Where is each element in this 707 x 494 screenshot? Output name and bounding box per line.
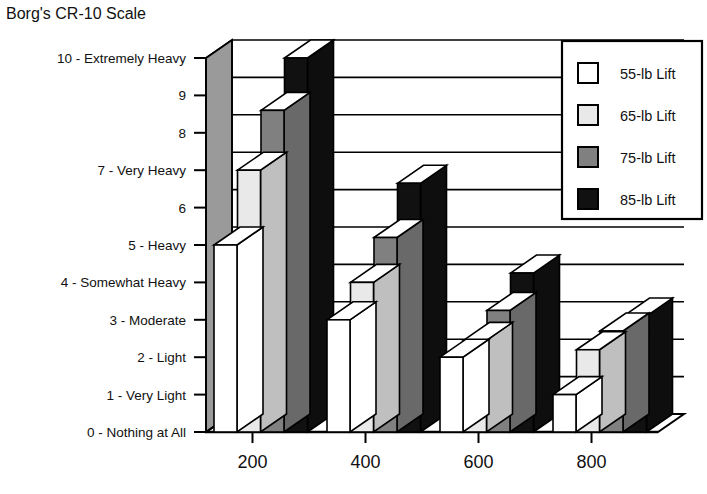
- y-axis-tick-label: 5 - Heavy: [128, 238, 186, 253]
- y-axis-tick-label: 9: [178, 88, 186, 103]
- legend-swatch: [578, 105, 598, 125]
- bar[interactable]: [327, 302, 376, 432]
- legend-label: 65-lb Lift: [620, 108, 676, 124]
- legend-swatch: [578, 147, 598, 167]
- x-axis-tick-label: 800: [576, 452, 606, 472]
- y-axis-tick-label: 1 - Very Light: [106, 388, 186, 403]
- page-title: Borg's CR-10 Scale: [6, 5, 146, 22]
- legend-label: 55-lb Lift: [620, 66, 676, 82]
- legend-item[interactable]: 85-lb Lift: [578, 189, 676, 209]
- bar-front-face: [214, 245, 237, 432]
- x-axis-tick-label: 200: [237, 452, 267, 472]
- bar-side-face: [397, 220, 423, 432]
- y-axis-tick-label: 2 - Light: [137, 350, 186, 365]
- bar-side-face: [647, 298, 673, 432]
- legend-item[interactable]: 55-lb Lift: [578, 63, 676, 83]
- y-axis-tick-label: 0 - Nothing at All: [87, 425, 186, 440]
- chart-container: Borg's CR-10 Scale 0 - Nothing at All1 -…: [0, 0, 707, 494]
- legend-item[interactable]: 65-lb Lift: [578, 105, 676, 125]
- bar-front-face: [553, 395, 576, 432]
- legend-item[interactable]: 75-lb Lift: [578, 147, 676, 167]
- x-axis-tick-label: 600: [463, 452, 493, 472]
- bar-side-face: [350, 302, 376, 432]
- bar[interactable]: [214, 227, 263, 432]
- y-axis-tick-label: 4 - Somewhat Heavy: [61, 275, 187, 290]
- bar-front-face: [440, 357, 463, 432]
- bar-side-face: [237, 227, 263, 432]
- y-axis-tick-label: 7 - Very Heavy: [97, 163, 186, 178]
- bar-side-face: [284, 92, 310, 432]
- borg-cr10-bar-chart: Borg's CR-10 Scale 0 - Nothing at All1 -…: [0, 0, 707, 494]
- bar-side-face: [261, 152, 287, 432]
- legend-label: 75-lb Lift: [620, 150, 676, 166]
- y-axis-tick-label: 8: [178, 126, 186, 141]
- legend: 55-lb Lift65-lb Lift75-lb Lift85-lb Lift: [562, 41, 702, 219]
- bar-front-face: [327, 320, 350, 432]
- y-axis-tick-label: 10 - Extremely Heavy: [57, 51, 186, 66]
- bar-side-face: [374, 264, 400, 432]
- bar-side-face: [623, 313, 649, 432]
- bar-side-face: [510, 292, 536, 432]
- bar[interactable]: [440, 339, 489, 432]
- x-axis-tick-label: 400: [350, 452, 380, 472]
- y-axis-tick-label: 6: [178, 201, 186, 216]
- legend-swatch: [578, 189, 598, 209]
- legend-label: 85-lb Lift: [620, 192, 676, 208]
- legend-swatch: [578, 63, 598, 83]
- y-axis-tick-label: 3 - Moderate: [109, 313, 186, 328]
